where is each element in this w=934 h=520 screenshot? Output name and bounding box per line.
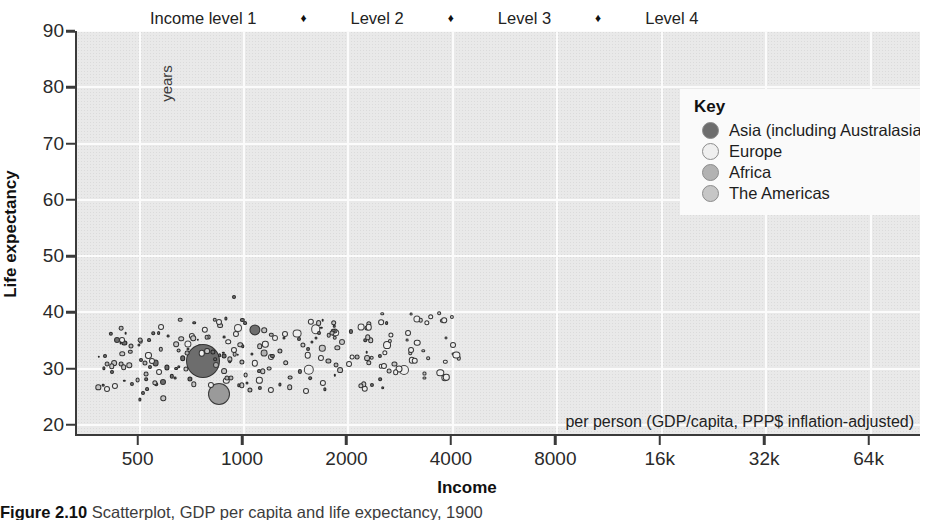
bubble-point[interactable] bbox=[228, 360, 232, 364]
bubble-point[interactable] bbox=[222, 354, 227, 359]
bubble-point[interactable] bbox=[261, 328, 267, 334]
bubble-point[interactable] bbox=[303, 388, 309, 394]
bubble-point[interactable] bbox=[288, 375, 293, 380]
bubble-point[interactable] bbox=[212, 318, 217, 323]
bubble-point[interactable] bbox=[141, 391, 145, 395]
bubble-point[interactable] bbox=[428, 314, 434, 320]
bubble-point[interactable] bbox=[337, 367, 343, 373]
bubble-point[interactable] bbox=[450, 342, 456, 348]
bubble-point[interactable] bbox=[304, 352, 311, 359]
bubble-point[interactable] bbox=[156, 369, 162, 375]
bubble-point[interactable] bbox=[408, 347, 414, 353]
bubble-point[interactable] bbox=[243, 373, 248, 378]
bubble-point[interactable] bbox=[414, 339, 421, 346]
bubble-point[interactable] bbox=[316, 320, 322, 326]
key-entry-asia[interactable]: Asia (including Australasia) bbox=[702, 121, 920, 140]
bubble-point[interactable] bbox=[144, 372, 149, 377]
bubble-point[interactable] bbox=[232, 295, 236, 299]
bubble-point[interactable] bbox=[243, 321, 247, 325]
bubble-point[interactable] bbox=[405, 330, 411, 336]
bubble-point[interactable] bbox=[437, 311, 441, 315]
bubble-point[interactable] bbox=[385, 321, 389, 325]
bubble-point[interactable] bbox=[173, 376, 176, 379]
bubble-point[interactable] bbox=[386, 369, 391, 374]
bubble-point[interactable] bbox=[246, 382, 249, 385]
bubble-point[interactable] bbox=[160, 379, 166, 385]
bubble-point[interactable] bbox=[204, 348, 210, 354]
bubble-point[interactable] bbox=[124, 332, 127, 335]
bubble-point[interactable] bbox=[176, 348, 181, 353]
y-tick-label: 90 bbox=[43, 20, 64, 42]
bubble-point[interactable] bbox=[306, 347, 310, 351]
bubble-point[interactable] bbox=[412, 358, 419, 365]
bubble-point[interactable] bbox=[158, 324, 164, 330]
bubble-point[interactable] bbox=[365, 334, 371, 340]
bubble-point[interactable] bbox=[272, 335, 278, 341]
bubble-point[interactable] bbox=[369, 355, 374, 360]
bubble-point[interactable] bbox=[339, 339, 345, 345]
bubble-point[interactable] bbox=[314, 337, 317, 340]
bubble-point[interactable] bbox=[410, 313, 413, 316]
bubble-point[interactable] bbox=[192, 321, 196, 325]
bubble-point[interactable] bbox=[283, 360, 289, 366]
bubble-point[interactable] bbox=[167, 335, 170, 338]
bubble-point[interactable] bbox=[109, 363, 115, 369]
bubble-point[interactable] bbox=[120, 351, 126, 357]
bubble-point[interactable] bbox=[146, 387, 150, 391]
bubble-point[interactable] bbox=[102, 384, 105, 387]
bubble-point[interactable] bbox=[308, 376, 312, 380]
bubble-point[interactable] bbox=[119, 341, 122, 344]
bubble-point[interactable] bbox=[379, 378, 383, 382]
bubble-point[interactable] bbox=[236, 353, 239, 356]
bubble-point[interactable] bbox=[191, 335, 197, 341]
bubble-point[interactable] bbox=[317, 331, 321, 335]
bubble-point[interactable] bbox=[204, 335, 209, 340]
bubble-point[interactable] bbox=[346, 362, 352, 368]
bubble-point[interactable] bbox=[405, 339, 408, 342]
bubble-point[interactable] bbox=[393, 369, 399, 375]
bubble-point[interactable] bbox=[330, 330, 335, 335]
bubble-point[interactable] bbox=[321, 319, 324, 322]
bubble-point[interactable] bbox=[297, 337, 301, 341]
bubble-point[interactable] bbox=[426, 356, 430, 360]
bubble-point[interactable] bbox=[355, 355, 360, 360]
bubble-point[interactable] bbox=[445, 336, 448, 339]
key-entry-africa[interactable]: Africa bbox=[702, 163, 920, 182]
bubble-point[interactable] bbox=[365, 351, 368, 354]
bubble-point[interactable] bbox=[110, 370, 114, 374]
bubble-point[interactable] bbox=[135, 378, 140, 383]
bubble-point[interactable] bbox=[157, 331, 161, 335]
bubble-point[interactable] bbox=[221, 368, 227, 374]
bubble-point[interactable] bbox=[174, 367, 178, 371]
bubble-point[interactable] bbox=[178, 336, 184, 342]
bubble-point[interactable] bbox=[180, 356, 186, 362]
bubble-point[interactable] bbox=[332, 336, 337, 341]
bubble-point[interactable] bbox=[228, 375, 233, 380]
bubble-point[interactable] bbox=[418, 318, 423, 323]
bubble-point[interactable] bbox=[178, 317, 183, 322]
key-entry-europe[interactable]: Europe bbox=[702, 142, 920, 161]
bubble-point[interactable] bbox=[366, 324, 373, 331]
bubble-point[interactable] bbox=[267, 366, 272, 371]
bubble-point[interactable] bbox=[260, 349, 267, 356]
bubble-point[interactable] bbox=[378, 319, 384, 325]
bubble-point[interactable] bbox=[441, 317, 447, 323]
bubble-point[interactable] bbox=[218, 353, 222, 357]
bubble-point[interactable] bbox=[144, 377, 148, 381]
bubble-point[interactable] bbox=[381, 386, 385, 390]
bubble-point[interactable] bbox=[103, 354, 107, 358]
bubble-point[interactable] bbox=[213, 362, 219, 368]
bubble-point[interactable] bbox=[138, 337, 143, 342]
bubble-point[interactable] bbox=[174, 341, 180, 347]
bubble-point[interactable] bbox=[223, 336, 226, 339]
bubble-point[interactable] bbox=[333, 325, 336, 328]
bubble-point[interactable] bbox=[380, 312, 384, 316]
bubble-point[interactable] bbox=[287, 384, 293, 390]
bubble-point[interactable] bbox=[214, 357, 218, 361]
key-entry-americas[interactable]: The Americas bbox=[702, 184, 920, 203]
bubble-point[interactable] bbox=[147, 338, 151, 342]
bubble-point[interactable] bbox=[225, 339, 231, 345]
bubble-point[interactable] bbox=[185, 350, 190, 355]
bubble-point[interactable] bbox=[119, 326, 124, 331]
bubble-point[interactable] bbox=[152, 331, 156, 335]
